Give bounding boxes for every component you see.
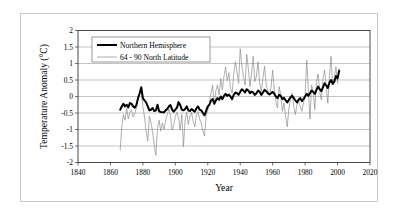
- y-tick-label: 0: [69, 92, 73, 101]
- temperature-anomaly-chart: -2-1.5-1-0.500.511.52 184018601880190019…: [0, 0, 399, 220]
- legend-label: Northern Hemisphere: [120, 41, 187, 50]
- y-axis-title: Temperature Anomaly (°C): [38, 44, 50, 149]
- x-tick-label: 2020: [363, 168, 378, 177]
- y-tick-label: 2: [69, 26, 73, 35]
- y-tick-label: -1.5: [61, 142, 73, 151]
- figure: -2-1.5-1-0.500.511.52 184018601880190019…: [0, 0, 399, 220]
- y-tick-label: -1: [67, 125, 73, 134]
- x-tick-label: 1840: [71, 168, 86, 177]
- y-tick-label: 1.5: [64, 43, 74, 52]
- x-tick-label: 1980: [298, 168, 313, 177]
- x-axis-title: Year: [215, 182, 233, 193]
- x-tick-label: 1880: [135, 168, 150, 177]
- x-axis-tick-labels: 1840186018801900192019401960198020002020: [71, 168, 378, 177]
- x-tick-label: 2000: [330, 168, 345, 177]
- legend-label: 64 - 90 North Latitude: [120, 53, 189, 62]
- y-tick-label: 1: [69, 59, 73, 68]
- y-axis-tick-labels: -2-1.5-1-0.500.511.52: [61, 26, 73, 167]
- y-tick-label: -2: [67, 158, 73, 167]
- x-tick-label: 1960: [265, 168, 280, 177]
- x-tick-label: 1920: [200, 168, 215, 177]
- x-tick-label: 1900: [168, 168, 183, 177]
- y-tick-label: 0.5: [64, 76, 74, 85]
- x-tick-label: 1860: [103, 168, 118, 177]
- y-tick-label: -0.5: [61, 109, 73, 118]
- chart-legend: Northern Hemisphere64 - 90 North Latitud…: [92, 37, 210, 62]
- x-tick-label: 1940: [233, 168, 248, 177]
